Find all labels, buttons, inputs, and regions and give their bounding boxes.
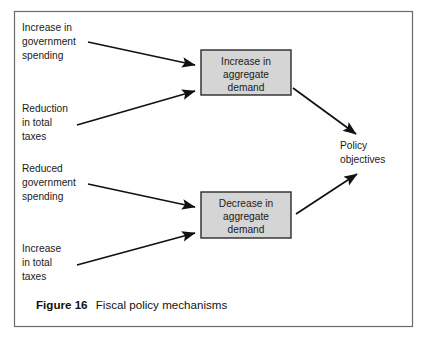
- input-label-line-1: Increase: [22, 243, 61, 254]
- input-label-line-1: Increase in: [22, 22, 72, 33]
- arrow-reduction-total-taxes-to-increase-demand: [77, 91, 195, 125]
- arrow-decrease-demand-to-policy-objectives: [296, 174, 357, 214]
- input-label-reduction-total-taxes: Reduction in total taxes: [22, 103, 68, 142]
- outcome-label-policy-objectives: Policy objectives: [340, 140, 385, 165]
- input-label-increase-total-taxes: Increase in total taxes: [22, 243, 61, 282]
- input-label-line-3: taxes: [22, 271, 46, 282]
- input-label-line-2: government: [22, 36, 76, 47]
- input-label-line-3: spending: [22, 50, 64, 61]
- node-text-line-1: Decrease in: [219, 198, 273, 209]
- node-text-line-2: aggregate: [223, 69, 269, 80]
- figure-caption: Figure 16 Fiscal policy mechanisms: [36, 298, 227, 311]
- outcome-text-line-2: objectives: [340, 154, 385, 165]
- input-label-line-1: Reduced: [22, 163, 63, 174]
- input-label-line-1: Reduction: [22, 103, 68, 114]
- arrow-increase-total-taxes-to-decrease-demand: [77, 233, 195, 265]
- input-label-line-2: government: [22, 177, 76, 188]
- input-label-increase-government-spending: Increase in government spending: [22, 22, 76, 61]
- arrow-reduced-government-spending-to-decrease-demand: [88, 184, 195, 207]
- input-label-line-2: in total: [22, 117, 52, 128]
- node-decrease-aggregate-demand: Decrease in aggregate demand: [201, 192, 291, 238]
- figure-container: Increase in government spending Reductio…: [0, 0, 428, 344]
- figure-caption-title: Fiscal policy mechanisms: [96, 298, 228, 311]
- input-label-line-3: spending: [22, 191, 64, 202]
- node-text-line-2: aggregate: [223, 211, 269, 222]
- node-text-line-1: Increase in: [221, 56, 271, 67]
- node-text-line-3: demand: [228, 82, 265, 93]
- node-text-line-3: demand: [228, 224, 265, 235]
- outcome-text-line-1: Policy: [340, 140, 368, 151]
- input-label-line-2: in total: [22, 257, 52, 268]
- input-label-line-3: taxes: [22, 131, 46, 142]
- arrow-increase-demand-to-policy-objectives: [293, 88, 356, 134]
- input-label-reduced-government-spending: Reduced government spending: [22, 163, 76, 202]
- figure-caption-label: Figure 16: [36, 298, 88, 311]
- node-increase-aggregate-demand: Increase in aggregate demand: [201, 50, 291, 95]
- fiscal-policy-diagram: Increase in government spending Reductio…: [0, 0, 428, 344]
- arrow-increase-government-spending-to-increase-demand: [88, 42, 195, 65]
